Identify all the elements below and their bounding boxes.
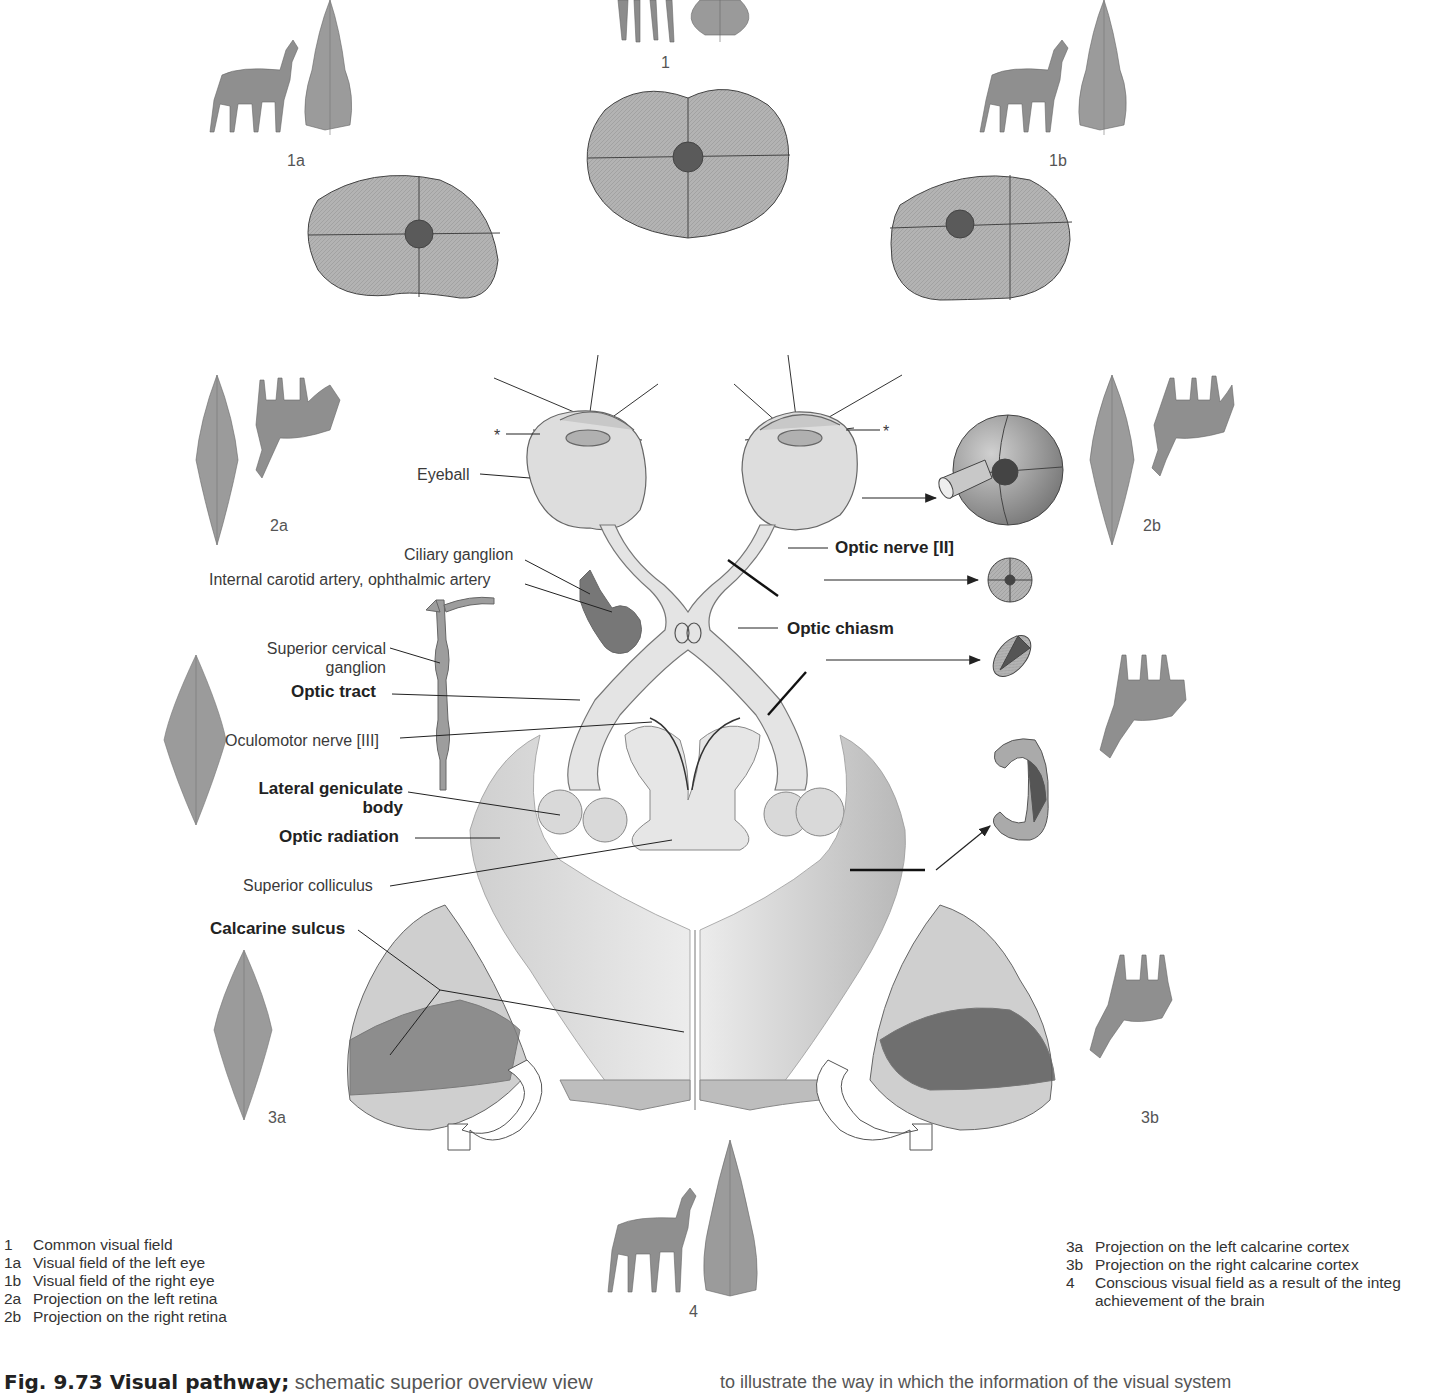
figure-caption-continued: to illustrate the way in which the infor… <box>720 1372 1231 1393</box>
optic-tract-cross-section <box>986 629 1038 684</box>
legend-item: 3aProjection on the left calcarine corte… <box>1066 1238 1401 1256</box>
label-optic-radiation: Optic radiation <box>279 827 399 846</box>
panel-number-4: 4 <box>689 1303 698 1321</box>
panel-number-1: 1 <box>661 54 670 72</box>
legend-item: 1aVisual field of the left eye <box>4 1254 227 1272</box>
label-eyeball: Eyeball <box>417 465 469 484</box>
deer-tree-figure-2b <box>1090 375 1234 545</box>
legend-item: 2bProjection on the right retina <box>4 1308 227 1326</box>
left-eyeball <box>527 411 646 530</box>
panel-number-1a: 1a <box>287 152 305 170</box>
deer-tree-figure-1b <box>980 0 1126 135</box>
label-lateral-geniculate-body: Lateral geniculate body <box>236 779 403 817</box>
legend-item: 2aProjection on the left retina <box>4 1290 227 1308</box>
deer-tree-figure-2a <box>196 375 340 545</box>
legend-item: 1bVisual field of the right eye <box>4 1272 227 1290</box>
asterisk-right: * <box>883 422 889 441</box>
label-superior-colliculus: Superior colliculus <box>243 876 373 895</box>
right-calcarine-cortex <box>870 905 1055 1130</box>
tree-figure-3a <box>214 950 272 1120</box>
optic-nerves-and-chiasm <box>568 525 807 790</box>
label-ciliary-ganglion: Ciliary ganglion <box>404 545 513 564</box>
label-calcarine-sulcus: Calcarine sulcus <box>210 919 345 938</box>
panel-number-2b: 2b <box>1143 517 1161 535</box>
legend-item: 3bProjection on the right calcarine cort… <box>1066 1256 1401 1274</box>
label-optic-nerve: Optic nerve [II] <box>835 538 954 557</box>
deer-tree-figure-1 <box>618 0 749 42</box>
tree-figure-3a-top <box>164 655 226 825</box>
figure-caption: Fig. 9.73 Visual pathway; schematic supe… <box>4 1370 593 1394</box>
legend-item: 4Conscious visual field as a result of t… <box>1066 1274 1401 1292</box>
deer-tree-figure-1a <box>210 0 352 135</box>
panel-number-2a: 2a <box>270 517 288 535</box>
asterisk-left: * <box>494 426 500 445</box>
visual-field-right-eye <box>890 175 1072 300</box>
legend-right: 3aProjection on the left calcarine corte… <box>1066 1238 1401 1310</box>
left-calcarine-cortex <box>348 905 531 1130</box>
label-internal-carotid-artery: Internal carotid artery, ophthalmic arte… <box>209 570 491 589</box>
deer-tree-figure-4 <box>608 1140 757 1296</box>
visual-field-left-eye <box>308 176 500 299</box>
optic-nerve-cross-section <box>988 558 1032 602</box>
panel-number-3a: 3a <box>268 1109 286 1127</box>
legend-item: achievement of the brain <box>1066 1292 1401 1310</box>
visual-field-common <box>587 89 790 238</box>
legend-item: 1Common visual field <box>4 1236 227 1254</box>
panel-number-1b: 1b <box>1049 152 1067 170</box>
lgb-c-shape <box>993 739 1048 840</box>
right-eyeball <box>742 412 857 530</box>
label-optic-chiasm: Optic chiasm <box>787 619 894 638</box>
deer-figure-3b-top <box>1100 655 1186 758</box>
label-oculomotor-nerve: Oculomotor nerve [III] <box>225 731 379 750</box>
label-superior-cervical-ganglion: Superior cervical ganglion <box>240 639 386 677</box>
label-optic-tract: Optic tract <box>291 682 376 701</box>
panel-number-3b: 3b <box>1141 1109 1159 1127</box>
deer-figure-3b <box>1090 955 1172 1058</box>
legend-left: 1Common visual field 1aVisual field of t… <box>4 1236 227 1326</box>
retina-sphere <box>936 415 1063 525</box>
